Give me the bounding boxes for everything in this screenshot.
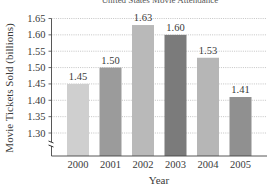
y-tick-label: 1.55 [27, 46, 45, 57]
x-tick-label: 2000 [68, 159, 89, 170]
bar-value-label: 1.53 [199, 45, 217, 56]
bar [230, 97, 252, 156]
x-axis: 200020012002200320042005 [52, 156, 268, 170]
bar-value-label: 1.45 [69, 71, 87, 82]
y-tick-label: 1.30 [27, 128, 45, 139]
bar [197, 58, 219, 156]
y-tick-label: 1.40 [27, 95, 45, 106]
y-tick-label: 1.60 [27, 29, 45, 40]
x-tick-label: 2001 [100, 159, 121, 170]
bar-value-label: 1.41 [231, 84, 249, 95]
chart-title: United States Movie Attendance [102, 0, 219, 5]
bar-value-label: 1.60 [166, 22, 184, 33]
bar-value-label: 1.63 [134, 12, 152, 23]
x-tick-label: 2002 [133, 159, 154, 170]
axis-break-icon [49, 141, 54, 147]
y-tick-label: 1.50 [27, 62, 45, 73]
bar [132, 25, 154, 156]
y-tick-label: 1.35 [27, 111, 45, 122]
bar-chart: United States Movie Attendance 1.451.501… [0, 0, 274, 192]
x-tick-label: 2005 [230, 159, 251, 170]
bar-value-label: 1.50 [101, 55, 119, 66]
bar [67, 84, 89, 156]
bar-2004: 1.53 [197, 45, 219, 156]
bar-2005: 1.41 [230, 84, 252, 156]
x-axis-title: Year [149, 174, 170, 186]
bar [165, 35, 187, 156]
bar-2002: 1.63 [132, 12, 154, 156]
y-tick-label: 1.45 [27, 78, 45, 89]
bar-2001: 1.50 [100, 55, 122, 156]
y-axis-title: Movie Tickets Sold (billions) [3, 23, 16, 153]
y-tick-label: 1.65 [27, 13, 45, 24]
y-axis: 1.301.351.401.451.501.551.601.65 [27, 13, 53, 156]
bar [100, 68, 122, 156]
bar-2003: 1.60 [165, 22, 187, 156]
x-tick-label: 2004 [198, 159, 220, 170]
x-tick-label: 2003 [165, 159, 186, 170]
